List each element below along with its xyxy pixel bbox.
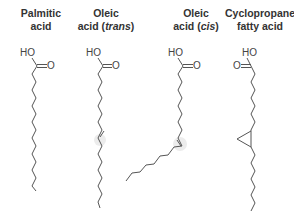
hydroxyl-bond xyxy=(32,58,37,66)
alkyl-chain-upper xyxy=(251,66,255,131)
hydroxyl-bond xyxy=(178,58,183,66)
hydroxyl-bond xyxy=(98,58,103,66)
cyclopropane-ring xyxy=(237,131,251,147)
palmitic-acid-structure xyxy=(32,58,47,191)
structures-canvas xyxy=(0,0,294,218)
cyclopropane-structure xyxy=(237,58,255,211)
alkyl-chain xyxy=(32,66,37,191)
double-bond-highlight xyxy=(94,134,106,146)
alkyl-chain-lower xyxy=(251,147,255,211)
oleic-cis-structure xyxy=(126,58,193,181)
oleic-trans-structure xyxy=(94,58,112,208)
alkyl-chain xyxy=(126,66,183,181)
